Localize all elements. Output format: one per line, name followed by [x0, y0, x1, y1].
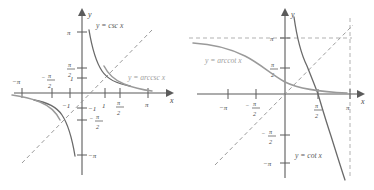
- y-axis-arrowhead: [281, 8, 289, 16]
- x-tick-label-neg-pi-over-2: − π 2: [245, 100, 260, 117]
- y-tick-label-neg-one: −1: [88, 105, 96, 113]
- numerator-pi: π: [269, 128, 273, 135]
- graph-panel-csc-arccsc: x y −π − π 2 −1 1 π 2 π π π 2 1 −1 − π 2: [0, 0, 187, 190]
- neg-sign: −: [41, 74, 45, 81]
- numerator-pi: π: [253, 100, 257, 107]
- y-axis-arrowhead: [78, 8, 86, 16]
- denominator-2: 2: [117, 109, 120, 116]
- numerator-pi: π: [68, 61, 72, 68]
- cot-curve-label: y = cot x: [294, 151, 322, 160]
- x-tick-label-one: 1: [102, 102, 106, 110]
- graph-panel-cot-arccot: x y −π − π 2 π 2 π π π 2 − π 2 −π y = ar…: [187, 0, 374, 190]
- numerator-pi: π: [48, 72, 52, 79]
- denominator-2: 2: [96, 123, 99, 130]
- neg-sign: −: [261, 130, 265, 137]
- x-axis-label: x: [360, 97, 365, 106]
- neg-sign: −: [245, 102, 249, 109]
- y-tick-label-neg-pi-over-2: − π 2: [261, 128, 276, 145]
- y-tick-label-neg-pi-over-2: − π 2: [89, 113, 103, 130]
- denominator-2: 2: [253, 110, 256, 117]
- numerator-pi: π: [271, 61, 275, 68]
- numerator-pi: π: [117, 99, 121, 106]
- y-tick-label-pi: π: [270, 35, 274, 43]
- denominator-2: 2: [48, 82, 51, 89]
- denominator-2: 2: [269, 138, 272, 145]
- y-axis-label: y: [87, 10, 92, 19]
- cot-arccot-svg: x y −π − π 2 π 2 π π π 2 − π 2 −π y = ar…: [187, 0, 374, 190]
- identity-line-dashed: [22, 30, 152, 163]
- csc-curve-label: y = csc x: [95, 21, 124, 30]
- arccot-curve-label: y = arccot x: [204, 56, 242, 65]
- x-tick-label-neg-one: −1: [62, 102, 70, 110]
- numerator-pi: π: [96, 113, 100, 120]
- x-axis-label: x: [169, 96, 174, 105]
- arccot-curve: [193, 43, 347, 93]
- x-tick-label-neg-pi: −π: [219, 104, 228, 112]
- csc-arccsc-svg: x y −π − π 2 −1 1 π 2 π π π 2 1 −1 − π 2: [0, 0, 187, 190]
- y-tick-label-neg-pi: −π: [263, 160, 272, 168]
- identity-line-dashed: [215, 25, 353, 165]
- x-tick-label-neg-pi-over-2: − π 2: [41, 72, 55, 89]
- arccsc-curve-label: y = arccsc x: [127, 73, 166, 82]
- csc-curve-upper-branch: [89, 30, 130, 86]
- y-tick-label-neg-pi: −π: [88, 152, 97, 160]
- x-tick-label-pi-over-2: π 2: [116, 99, 124, 116]
- y-tick-label-pi: π: [67, 29, 71, 37]
- denominator-2: 2: [315, 112, 318, 119]
- numerator-pi: π: [315, 102, 319, 109]
- arccsc-curve-lower-branch: [12, 95, 60, 120]
- x-tick-label-neg-pi: −π: [12, 78, 21, 86]
- x-tick-label-pi: π: [145, 101, 149, 109]
- y-tick-label-one: 1: [70, 75, 74, 83]
- x-tick-label-pi: π: [346, 104, 350, 112]
- neg-sign: −: [89, 115, 93, 122]
